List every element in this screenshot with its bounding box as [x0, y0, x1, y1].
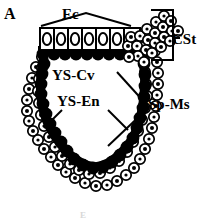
label-bottom-partial: E — [80, 211, 86, 220]
label-ec: Ec — [62, 7, 79, 22]
label-cst: CSt — [172, 32, 196, 47]
label-ys-en: YS-En — [57, 94, 100, 109]
label-ys-cv: YS-Cv — [52, 68, 95, 83]
panel-label-a: A — [4, 6, 16, 22]
figure-panel-a: A Ec CSt YS-Cv YS-En Sp-Ms E — [0, 0, 206, 222]
label-sp-ms: Sp-Ms — [148, 97, 190, 112]
